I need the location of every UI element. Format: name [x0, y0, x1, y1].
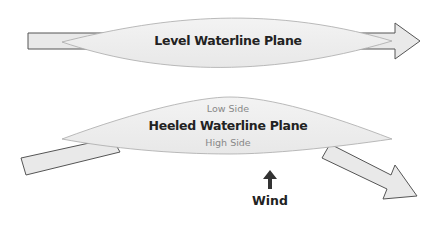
high-side-label: High Side — [205, 137, 250, 148]
low-side-label: Low Side — [207, 103, 249, 114]
level-waterline-label: Level Waterline Plane — [154, 33, 301, 48]
wind-label: Wind — [252, 193, 288, 208]
heeled-waterline-label: Heeled Waterline Plane — [149, 118, 308, 133]
up-arrow-icon — [263, 170, 277, 189]
